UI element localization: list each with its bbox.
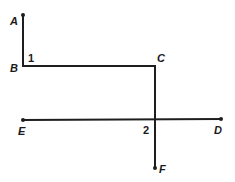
label-angle-1: 1 bbox=[28, 52, 34, 64]
label-point-a: A bbox=[9, 15, 18, 27]
point-f-dot bbox=[153, 166, 157, 170]
label-point-c: C bbox=[157, 52, 166, 64]
point-d-dot bbox=[219, 117, 223, 121]
label-angle-2: 2 bbox=[143, 124, 149, 136]
point-e-dot bbox=[21, 118, 25, 122]
label-point-f: F bbox=[159, 163, 166, 175]
point-a-dot bbox=[21, 13, 25, 17]
geometry-diagram: A B C E D F 1 2 bbox=[0, 0, 235, 182]
label-point-d: D bbox=[214, 124, 222, 136]
segment-ed bbox=[23, 119, 221, 120]
label-point-b: B bbox=[10, 62, 18, 74]
label-point-e: E bbox=[18, 125, 26, 137]
